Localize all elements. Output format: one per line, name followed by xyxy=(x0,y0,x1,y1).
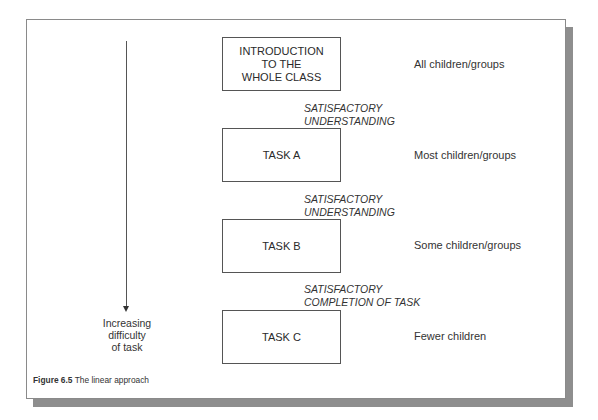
caption-title: The linear approach xyxy=(75,374,149,385)
transition-label-2: SATISFACTORY UNDERSTANDING xyxy=(304,193,395,219)
stage-box-task-c: TASK C xyxy=(222,310,341,364)
arrow-down-icon xyxy=(123,306,129,312)
figure-frame: Increasing difficulty of task INTRODUCTI… xyxy=(26,19,566,399)
difficulty-arrow-line xyxy=(126,41,127,309)
figure-caption: Figure 6.5 The linear approach xyxy=(33,374,149,385)
stage-box-task-b: TASK B xyxy=(222,219,341,273)
audience-label-most: Most children/groups xyxy=(414,149,516,161)
stage-box-task-a: TASK A xyxy=(222,128,341,182)
caption-number: Figure 6.5 xyxy=(33,374,72,385)
audience-label-some: Some children/groups xyxy=(414,239,521,251)
transition-label-1: SATISFACTORY UNDERSTANDING xyxy=(304,102,395,128)
transition-label-3: SATISFACTORY COMPLETION OF TASK xyxy=(304,283,420,309)
audience-label-fewer: Fewer children xyxy=(414,330,486,342)
stage-box-introduction: INTRODUCTION TO THE WHOLE CLASS xyxy=(222,37,341,91)
difficulty-label: Increasing difficulty of task xyxy=(85,317,169,353)
audience-label-all: All children/groups xyxy=(414,58,505,70)
